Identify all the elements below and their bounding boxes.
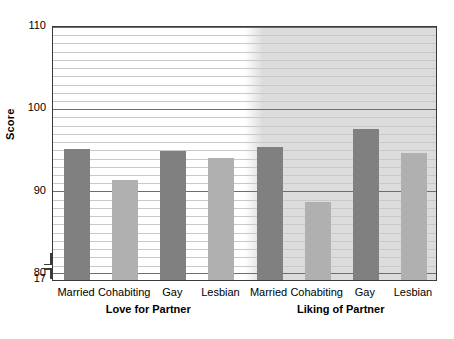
gridline-minor <box>53 76 436 77</box>
gridline-minor <box>53 35 436 36</box>
bar-liking-of-partner-gay <box>353 129 379 280</box>
bar-love-for-partner-gay <box>160 151 186 280</box>
gridline-minor <box>53 43 436 44</box>
bar-liking-of-partner-lesbian <box>401 153 427 281</box>
gridline-minor <box>53 85 436 86</box>
y-tick-110: 110 <box>20 20 46 31</box>
bar-chart: Score 110100908017 MarriedCohabitingGayL… <box>0 0 454 339</box>
gridline-minor <box>53 126 436 127</box>
bar-love-for-partner-married <box>64 149 90 280</box>
gridline-minor <box>53 52 436 53</box>
gridline-minor <box>53 101 436 102</box>
group-label-liking-of-partner: Liking of Partner <box>251 303 431 315</box>
bar-liking-of-partner-married <box>257 147 283 280</box>
gridline-minor <box>53 93 436 94</box>
gridline-minor <box>53 68 436 69</box>
y-axis-title: Score <box>4 108 16 140</box>
gridline-minor <box>53 60 436 61</box>
gridline-major <box>53 109 436 110</box>
plot-area <box>52 26 437 281</box>
y-tick-90: 90 <box>20 185 46 196</box>
bar-liking-of-partner-cohabiting <box>305 202 331 280</box>
y-tick-17: 17 <box>20 273 46 284</box>
x-label-lesbian: Lesbian <box>373 286 453 298</box>
y-tick-100: 100 <box>20 102 46 113</box>
gridline-major <box>53 27 436 28</box>
gridline-minor <box>53 117 436 118</box>
bar-love-for-partner-cohabiting <box>112 180 138 280</box>
bar-love-for-partner-lesbian <box>208 158 234 280</box>
group-label-love-for-partner: Love for Partner <box>58 303 238 315</box>
